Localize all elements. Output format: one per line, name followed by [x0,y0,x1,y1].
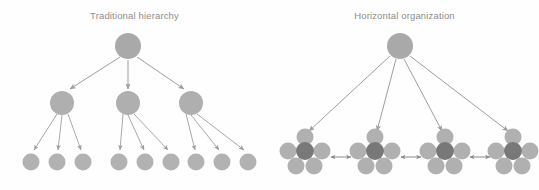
traditional-hierarchy-graph [0,0,269,190]
cluster-2-node-middle-right[interactable] [384,143,401,160]
node-leaf-6[interactable] [163,154,180,171]
cluster-4-node-bottom-right[interactable] [514,158,531,175]
cluster-3-node-middle-right[interactable] [454,143,471,160]
edge-middle1-leaf1 [34,114,57,150]
cluster-1-node-bottom-right[interactable] [306,158,323,175]
edge-root-to-cluster-2 [377,59,396,131]
edge-middle3-leaf1 [186,114,195,150]
edge-root-to-middle-3 [137,57,184,89]
cluster-3-node-bottom-right[interactable] [446,158,463,175]
cluster-2 [350,129,401,175]
cluster-4-node-middle-right[interactable] [522,143,539,160]
cluster-4-node-middle-left[interactable] [488,143,505,160]
edge-root-to-cluster-4 [410,56,508,131]
edge-root-to-cluster-3 [404,59,442,131]
nodes-middle [50,91,203,115]
panel-traditional-hierarchy: Traditional hierarchy [0,0,269,190]
node-leaf-4[interactable] [111,154,128,171]
edge-middle2-leaf3 [134,114,168,150]
horizontal-organization-graph [270,0,539,190]
cluster-2-node-middle-left[interactable] [350,143,367,160]
nodes-leaf [23,154,257,171]
diagram-canvas: Traditional hierarchy [0,0,539,190]
cluster-1-node-middle-left[interactable] [280,143,297,160]
node-middle-3[interactable] [179,91,203,115]
edge-root-to-middle-1 [70,57,120,89]
edge-middle1-leaf3 [68,114,81,150]
node-root[interactable] [387,33,413,59]
cluster-4-node-center[interactable] [504,142,522,160]
cluster-1-node-middle-right[interactable] [314,143,331,160]
cluster-3 [420,129,471,175]
cluster-3-node-center[interactable] [436,142,454,160]
cluster-2-node-bottom-right[interactable] [376,158,393,175]
panel-horizontal-organization: Horizontal organization [270,0,539,190]
cluster-4-node-bottom-left[interactable] [496,158,513,175]
node-leaf-3[interactable] [75,154,92,171]
edge-middle2-leaf2 [128,115,144,150]
edge-root-to-cluster-1 [309,56,390,131]
cluster-2-node-center[interactable] [366,142,384,160]
node-leaf-8[interactable] [214,154,231,171]
edges-root-to-middle [70,57,184,89]
cluster-4 [488,129,539,175]
edges-middle-to-leaf [34,114,244,150]
cluster-1 [280,129,331,175]
node-leaf-7[interactable] [188,154,205,171]
node-leaf-9[interactable] [240,154,257,171]
node-middle-2[interactable] [116,91,140,115]
node-middle-1[interactable] [50,91,74,115]
node-leaf-5[interactable] [137,154,154,171]
cluster-2-node-bottom-left[interactable] [358,158,375,175]
edge-middle2-leaf1 [120,114,123,150]
node-root[interactable] [115,33,141,59]
node-leaf-2[interactable] [49,154,66,171]
cluster-1-node-center[interactable] [296,142,314,160]
cluster-1-node-bottom-left[interactable] [288,158,305,175]
edges-root-to-clusters [309,56,508,131]
cluster-3-node-bottom-left[interactable] [428,158,445,175]
node-leaf-1[interactable] [23,154,40,171]
edge-middle1-leaf2 [58,115,62,150]
cluster-3-node-middle-left[interactable] [420,143,437,160]
